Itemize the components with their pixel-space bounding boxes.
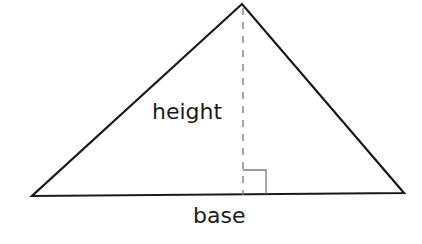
base-label: base [193, 205, 245, 227]
right-angle-marker [243, 170, 266, 194]
height-label: height [152, 101, 222, 123]
